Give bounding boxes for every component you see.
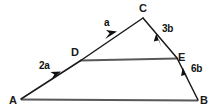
segment-de [80,59,177,61]
vertex-label-e: E [178,52,185,63]
vertex-label-b: B [200,95,208,106]
vertex-label-d: D [71,47,79,58]
segment-ad [21,61,80,99]
arrowhead-ad-icon [50,72,61,81]
segment-dc [80,18,143,61]
vector-label-a: a [104,18,109,28]
vertex-label-a: A [9,95,17,106]
vector-label-3b: 3b [162,24,173,34]
vector-label-2a: 2a [39,61,50,71]
vector-label-6b: 6b [191,64,202,74]
vertex-label-c: C [139,3,147,14]
vector-triangle-diagram: A B C D E 2a a 3b 6b [0,0,213,112]
segment-ab [21,100,198,101]
